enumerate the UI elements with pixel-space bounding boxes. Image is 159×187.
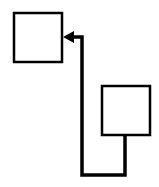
arrowhead-icon	[63, 31, 74, 43]
diagram-canvas	[0, 0, 159, 187]
box-2[interactable]	[102, 86, 150, 135]
box-1[interactable]	[14, 13, 62, 62]
